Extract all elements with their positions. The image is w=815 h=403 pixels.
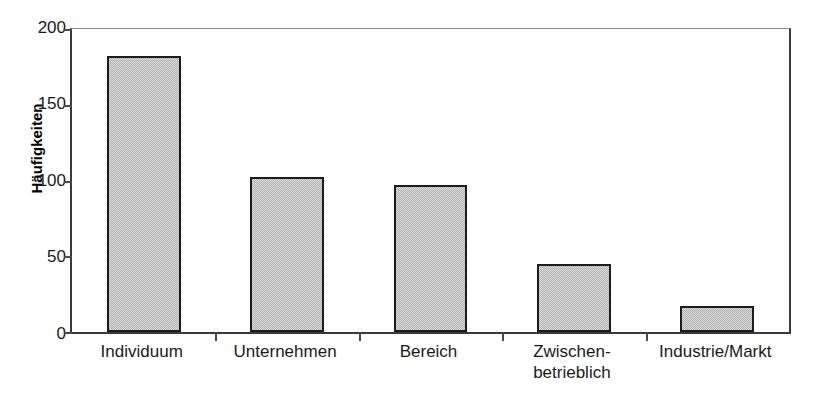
x-label-bereich: Bereich	[357, 341, 500, 362]
x-tick-mark	[502, 332, 504, 341]
y-tick-mark	[64, 256, 72, 258]
plot-area	[70, 28, 791, 334]
y-tick-mark	[64, 181, 72, 183]
x-label-line: Industrie/Markt	[644, 341, 787, 362]
bar-bereich	[394, 185, 468, 332]
y-tick-mark	[64, 105, 72, 107]
y-axis-tick-labels: 200 150 100 50 0	[14, 0, 66, 403]
x-label-line: betrieblich	[500, 362, 643, 383]
bar-unternehmen	[250, 177, 324, 332]
x-label-individuum: Individuum	[70, 341, 213, 362]
x-tick-mark	[359, 332, 361, 341]
y-tick-mark	[64, 29, 72, 31]
x-axis-category-labels: Individuum Unternehmen Bereich Zwischen-…	[70, 341, 791, 401]
bar-industrie-markt	[680, 306, 754, 332]
y-tick-mark	[64, 332, 72, 334]
bar-chart: Häufigkeiten 200 150 100 50 0 Individuum	[0, 0, 815, 403]
x-label-line: Zwischen-	[500, 341, 643, 362]
y-tick-label: 200	[22, 19, 66, 36]
y-tick-label: 0	[22, 325, 66, 342]
x-label-line: Unternehmen	[213, 341, 356, 362]
x-label-unternehmen: Unternehmen	[213, 341, 356, 362]
bar-zwischenbetrieblich	[537, 264, 611, 332]
x-label-line: Individuum	[70, 341, 213, 362]
y-tick-label: 50	[22, 248, 66, 265]
x-label-line: Bereich	[357, 341, 500, 362]
y-tick-label: 150	[22, 95, 66, 112]
bar-individuum	[107, 56, 181, 332]
x-label-zwischenbetrieblich: Zwischen- betrieblich	[500, 341, 643, 384]
x-label-industrie-markt: Industrie/Markt	[644, 341, 787, 362]
x-tick-mark	[215, 332, 217, 341]
y-tick-label: 100	[22, 172, 66, 189]
x-tick-mark	[646, 332, 648, 341]
